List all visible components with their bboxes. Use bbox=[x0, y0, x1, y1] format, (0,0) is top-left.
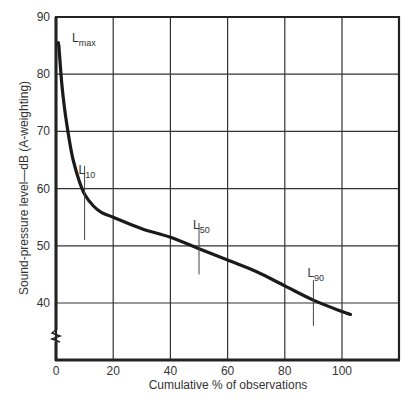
y-tick-label: 90 bbox=[37, 10, 51, 24]
annotations: LmaxL10L50L90 bbox=[72, 31, 324, 326]
annotation-Lmax: Lmax bbox=[72, 31, 96, 48]
annotation-label: Lmax bbox=[72, 31, 96, 48]
y-tick-label: 80 bbox=[37, 67, 51, 81]
annotation-L90: L90 bbox=[307, 266, 324, 326]
annotation-label: L10 bbox=[79, 163, 96, 180]
x-tick-label: 100 bbox=[332, 364, 352, 378]
x-tick-label: 0 bbox=[53, 364, 60, 378]
y-tick-label: 60 bbox=[37, 182, 51, 196]
y-tick-labels: 405060708090 bbox=[37, 10, 51, 310]
y-tick-label: 70 bbox=[37, 124, 51, 138]
annotation-label: L50 bbox=[193, 218, 210, 235]
x-tick-label: 80 bbox=[278, 364, 292, 378]
annotation-label: L90 bbox=[307, 266, 324, 283]
x-tick-label: 20 bbox=[107, 364, 121, 378]
x-tick-label: 60 bbox=[221, 364, 235, 378]
sound-level-chart: 405060708090 020406080100 Cumulative % o… bbox=[0, 0, 416, 405]
y-tick-label: 50 bbox=[37, 239, 51, 253]
grid bbox=[56, 17, 399, 360]
x-axis-label: Cumulative % of observations bbox=[149, 378, 308, 392]
y-tick-label: 40 bbox=[37, 296, 51, 310]
y-axis-label: Sound-pressure level—dB (A-weighting) bbox=[17, 81, 31, 295]
x-tick-label: 40 bbox=[164, 364, 178, 378]
annotation-L10: L10 bbox=[79, 163, 96, 240]
x-tick-labels: 020406080100 bbox=[53, 364, 353, 378]
